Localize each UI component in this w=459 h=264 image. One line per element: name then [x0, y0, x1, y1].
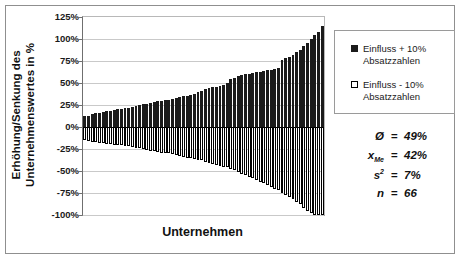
bar-positive: [281, 60, 284, 127]
y-axis-tick-mark: [77, 61, 82, 62]
figure-canvas: Erhöhung/Senkung des Unternehmenswertes …: [0, 0, 459, 264]
stat-equals: =: [384, 169, 404, 181]
bar-negative: [292, 127, 295, 199]
bar-negative: [171, 127, 174, 154]
bar-negative: [156, 127, 159, 152]
bar-positive: [178, 97, 181, 127]
bar-negative: [277, 127, 280, 190]
bar-negative: [138, 127, 141, 148]
bar-positive: [131, 107, 134, 127]
y-axis-tick-mark: [77, 171, 82, 172]
bar-negative: [124, 127, 127, 146]
bar-positive: [153, 102, 156, 127]
bar-positive: [306, 43, 309, 127]
bar-negative: [102, 127, 105, 143]
y-axis-tick-mark: [77, 215, 82, 216]
bar-negative: [229, 127, 232, 169]
bar-negative: [113, 127, 116, 145]
stat-symbol: xMe: [342, 149, 384, 163]
stat-equals: =: [384, 149, 404, 161]
bar-negative: [233, 127, 236, 170]
y-axis-tick-label: -75%: [34, 187, 79, 198]
bar-positive: [98, 113, 101, 127]
stat-symbol: s2: [342, 168, 384, 181]
bar-negative: [284, 127, 287, 195]
hollow-square-icon: [351, 81, 358, 88]
bar-negative: [116, 127, 119, 145]
bar-negative: [226, 127, 229, 167]
y-axis-tick-label: 75%: [34, 55, 79, 66]
bar-negative: [219, 127, 222, 166]
bar-negative: [310, 127, 313, 213]
bar-positive: [208, 88, 211, 127]
gridline: [83, 215, 324, 216]
x-axis-title: Unternehmen: [82, 225, 323, 239]
bar-negative: [259, 127, 262, 182]
bar-negative: [251, 127, 254, 178]
y-axis-tick-label: -50%: [34, 165, 79, 176]
bar-positive: [310, 39, 313, 127]
bar-negative: [87, 127, 90, 141]
bar-negative: [149, 127, 152, 151]
bar-negative: [98, 127, 101, 143]
bar-positive: [197, 92, 200, 127]
bar-positive: [175, 98, 178, 127]
bar-negative: [240, 127, 243, 174]
y-axis-tick-label: 25%: [34, 99, 79, 110]
stat-value: 49%: [404, 130, 448, 142]
bar-positive: [248, 74, 251, 127]
legend-item-positive: Einfluss + 10% Absatzzahlen: [351, 43, 426, 67]
bar-positive: [244, 74, 247, 127]
y-axis-tick-label: 0%: [34, 121, 79, 132]
y-axis-tick-mark: [77, 193, 82, 194]
bar-positive: [167, 100, 170, 127]
stat-value: 66: [404, 187, 448, 199]
bar-negative: [266, 127, 269, 185]
bar-positive: [219, 86, 222, 127]
bar-negative: [211, 127, 214, 164]
bar-positive: [160, 101, 163, 127]
legend-item-label: Einfluss - 10% Absatzzahlen: [363, 79, 424, 103]
bar-negative: [91, 127, 94, 142]
bar-negative: [109, 127, 112, 144]
stat-value: 7%: [404, 169, 448, 181]
stat-symbol: Ø: [342, 130, 384, 142]
bar-positive: [313, 35, 316, 127]
bar-positive: [102, 112, 105, 127]
bar-positive: [302, 46, 305, 127]
bar-positive: [259, 72, 262, 127]
bar-positive: [138, 105, 141, 127]
bar-positive: [284, 58, 287, 127]
bar-positive: [186, 96, 189, 127]
bar-positive: [273, 69, 276, 127]
bar-negative: [167, 127, 170, 153]
bar-positive: [91, 114, 94, 127]
bar-positive: [295, 52, 298, 127]
bar-positive: [321, 26, 324, 127]
bar-positive: [222, 85, 225, 127]
y-axis-tick-mark: [77, 17, 82, 18]
y-axis-tick-mark: [77, 127, 82, 128]
bar-positive: [255, 72, 258, 127]
bar-positive: [233, 78, 236, 127]
bar-positive: [145, 104, 148, 127]
y-axis-tick-mark: [77, 83, 82, 84]
bar-positive: [266, 70, 269, 127]
bar-negative: [120, 127, 123, 145]
filled-square-icon: [351, 45, 358, 52]
bar-positive: [262, 71, 265, 127]
bar-positive: [127, 108, 130, 127]
bar-positive: [317, 32, 320, 127]
bar-negative: [237, 127, 240, 172]
stat-row: n=66: [342, 187, 452, 206]
bar-positive: [215, 87, 218, 127]
y-axis-tick-label: 125%: [34, 11, 79, 22]
bar-negative: [189, 127, 192, 158]
stat-equals: =: [384, 187, 404, 199]
bar-positive: [109, 111, 112, 127]
bar-positive: [251, 73, 254, 127]
bar-negative: [197, 127, 200, 160]
bar-negative: [288, 127, 291, 197]
bar-positive: [204, 89, 207, 127]
bar-positive: [83, 116, 86, 127]
